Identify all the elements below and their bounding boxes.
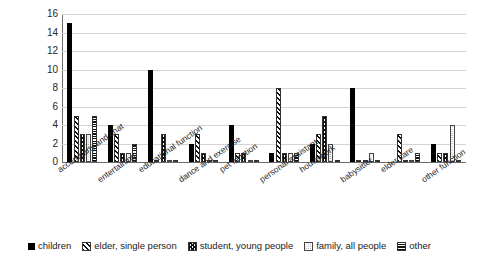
bar-chart: 1614121086420 accompany and chatentertai… [0,0,477,262]
bar [189,144,194,163]
legend-item: other [397,241,431,251]
bar [167,160,172,162]
legend-label: children [38,241,71,251]
bar [335,160,340,162]
legend-label: family, all people [316,241,386,251]
bar [415,153,420,162]
bar [254,160,259,162]
plot-area [62,14,466,162]
y-axis-tick: 14 [47,28,58,38]
legend-item: elder, single person [82,241,176,251]
bar-group [345,14,385,162]
bar [276,88,281,162]
y-axis-tick-labels: 1614121086420 [30,14,58,162]
y-axis-tick: 16 [47,9,58,19]
bar-groups [62,14,466,162]
bar [269,153,274,162]
y-axis-tick: 12 [47,46,58,56]
y-axis-tick: 8 [52,83,58,93]
legend-swatch-icon [28,243,35,250]
bar-group [264,14,304,162]
legend-swatch-icon [304,242,313,251]
bar [67,23,72,162]
y-axis-tick: 10 [47,65,58,75]
legend-item: children [28,241,71,251]
legend-swatch-icon [82,242,91,251]
y-axis-tick: 2 [52,139,58,149]
bar [114,134,119,162]
chart-legend: childrenelder, single personstudent, you… [28,238,468,254]
bar [350,88,355,162]
y-axis-tick: 6 [52,102,58,112]
bar [409,160,414,162]
legend-label: other [409,241,431,251]
legend-item: family, all people [304,241,386,251]
bar [195,134,200,162]
legend-label: student, young people [200,241,294,251]
bar [248,160,253,162]
legend-swatch-icon [188,242,197,251]
y-axis-tick: 4 [52,120,58,130]
bar [173,160,178,162]
legend-swatch-icon [397,242,406,251]
legend-label: elder, single person [94,241,176,251]
bar-group [426,14,466,162]
bar [431,144,436,163]
x-axis-category-labels: accompany and chatentertainingeducationa… [62,163,466,225]
bar-group [385,14,425,162]
legend-item: student, young people [188,241,294,251]
bar [148,70,153,163]
bar [375,160,380,162]
